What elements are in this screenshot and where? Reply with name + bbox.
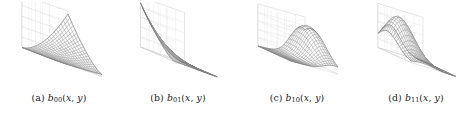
surface-plot-d-svg xyxy=(357,2,475,88)
caption-b: (b) b01(x, y) xyxy=(119,92,237,104)
surface-plot-c-svg xyxy=(238,2,356,88)
surface-plot-c xyxy=(238,2,356,88)
caption-a-close-paren: ) xyxy=(83,92,87,103)
caption-a: (a) b00(x, y) xyxy=(0,92,118,104)
caption-c: (c) b10(x, y) xyxy=(238,92,356,104)
caption-d: (d) b11(x, y) xyxy=(357,92,475,104)
caption-c-tag: (c) xyxy=(270,92,283,103)
caption-c-close-paren: ) xyxy=(321,92,325,103)
caption-b-close-paren: ) xyxy=(202,92,206,103)
caption-d-close-paren: ) xyxy=(440,92,444,103)
panel-b: (b) b01(x, y) xyxy=(119,0,237,117)
caption-c-subscript: 10 xyxy=(292,96,300,104)
surface-plot-b xyxy=(119,2,237,88)
surface-plot-a xyxy=(0,2,118,88)
caption-a-subscript: 00 xyxy=(54,96,62,104)
surface-plot-d xyxy=(357,2,475,88)
surface-plot-b-svg xyxy=(119,2,237,88)
caption-b-tag: (b) xyxy=(150,92,164,103)
figure-container: (a) b00(x, y) (b) b01(x, y) (c) b10(x, y… xyxy=(0,0,475,117)
panel-c: (c) b10(x, y) xyxy=(238,0,356,117)
panel-a: (a) b00(x, y) xyxy=(0,0,118,117)
panel-d: (d) b11(x, y) xyxy=(357,0,475,117)
caption-a-tag: (a) xyxy=(32,92,45,103)
caption-d-tag: (d) xyxy=(388,92,402,103)
surface-plot-a-svg xyxy=(0,2,118,88)
